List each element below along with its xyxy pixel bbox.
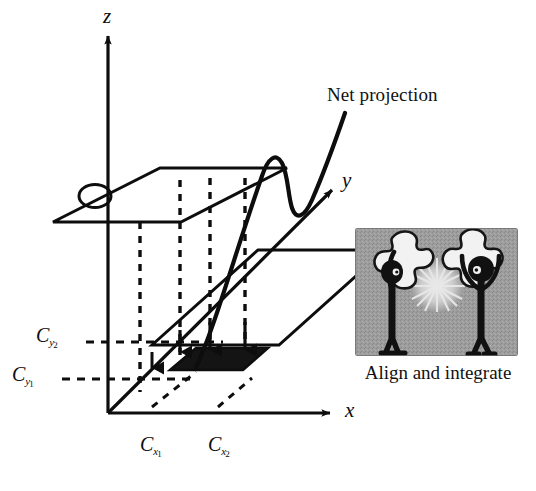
tick-label-cx2-base: C xyxy=(208,433,221,455)
net-projection-curve xyxy=(196,113,345,367)
upper-plane xyxy=(53,168,287,222)
tick-label-cy2-index: 2 xyxy=(53,340,58,350)
dashed-floor-guide-1 xyxy=(152,372,196,407)
tick-label-cy1-index: 1 xyxy=(29,379,34,389)
tick-label-cx1-base: C xyxy=(140,433,153,455)
net-projection-figure: z y x Net projection Cy2 Cy1 Cx1 Cx2 Ali… xyxy=(0,0,536,491)
dashed-floor-guides xyxy=(152,372,252,407)
z-axis-label: z xyxy=(103,6,111,27)
tick-label-cx1: Cx1 xyxy=(140,434,163,454)
target-patch xyxy=(170,348,268,370)
tick-label-cx1-index: 1 xyxy=(157,449,162,459)
net-projection-label: Net projection xyxy=(327,84,438,106)
y-axis-label: y xyxy=(342,170,351,191)
tick-label-cy2: Cy2 xyxy=(36,325,59,345)
tick-label-cy1-base: C xyxy=(12,363,25,385)
x-axis-label: x xyxy=(345,400,354,421)
tick-label-cx2-index: 2 xyxy=(225,449,230,459)
middle-plane xyxy=(152,250,385,345)
dashed-floor-guide-2 xyxy=(218,378,252,407)
diagram-canvas xyxy=(0,0,536,491)
tick-label-cy1: Cy1 xyxy=(12,364,35,384)
align-and-integrate-caption: Align and integrate xyxy=(345,362,531,384)
align-and-integrate-illustration xyxy=(355,228,518,356)
tick-label-cy2-base: C xyxy=(36,324,49,346)
tick-label-cx2: Cx2 xyxy=(208,434,231,454)
